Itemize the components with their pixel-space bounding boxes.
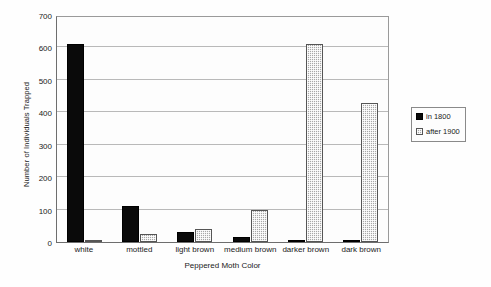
bar [251,210,268,242]
legend-item: after 1900 [416,127,460,136]
bar-group [167,17,222,242]
x-axis-tick-labels: whitemottledlight brownmedium browndarke… [56,245,389,261]
bar [288,240,305,242]
y-tick-label: 0 [16,239,52,248]
bar [233,237,250,242]
x-tick-label: light brown [167,245,223,261]
legend-swatch-black-icon [416,113,423,120]
bar [122,206,139,242]
y-tick-label: 500 [16,76,52,85]
legend-item-label: after 1900 [426,127,460,136]
bar [67,44,84,242]
bar-groups [57,17,388,242]
x-tick-label: darker brown [278,245,334,261]
bar-group [278,17,333,242]
y-tick-label: 700 [16,12,52,21]
x-tick-label: dark brown [334,245,390,261]
x-tick-label: white [56,245,112,261]
bar-group [333,17,388,242]
bar [85,240,102,242]
y-tick-label: 300 [16,141,52,150]
y-tick-label: 200 [16,174,52,183]
x-tick-label: medium brown [223,245,279,261]
y-tick-label: 100 [16,206,52,215]
bar [177,232,194,242]
bar-group [223,17,278,242]
legend-item: in 1800 [416,112,460,121]
bar [140,234,157,242]
bar [343,240,360,242]
bar-group [57,17,112,242]
legend-item-label: in 1800 [426,112,451,121]
bar [361,103,378,242]
bar-chart: Number of Individuals Trapped 0100200300… [0,0,491,287]
bar-group [112,17,167,242]
y-tick-label: 400 [16,109,52,118]
legend-swatch-gray-icon [416,128,423,135]
x-axis-title: Peppered Moth Color [56,261,389,270]
y-tick-label: 600 [16,44,52,53]
bar [195,229,212,242]
plot-area [56,16,389,243]
y-axis-tick-labels: 0100200300400500600700 [16,0,52,287]
chart-legend: in 1800after 1900 [411,107,466,142]
bar [306,44,323,242]
x-tick-label: mottled [112,245,168,261]
